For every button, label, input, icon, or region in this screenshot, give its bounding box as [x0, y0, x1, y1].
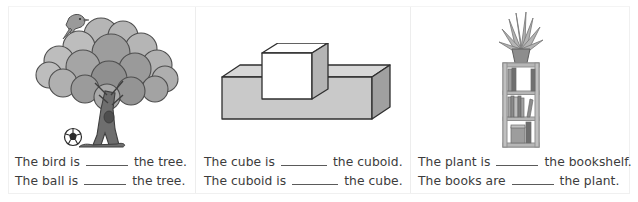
answer-blank-books[interactable] [512, 173, 554, 185]
exercise-panel-bookshelf: The plant is the bookshelf. The books ar… [411, 7, 629, 193]
sentence-cuboid: The cuboid is the cube. [204, 172, 410, 191]
captions-bookshelf: The plant is the bookshelf. The books ar… [411, 153, 629, 191]
sentence-ball: The ball is the tree. [15, 172, 195, 191]
answer-blank-plant[interactable] [496, 154, 538, 166]
sentence-plant-after: the bookshelf. [544, 155, 631, 169]
sentence-cube-before: The cube is [204, 155, 275, 169]
answer-blank-cube[interactable] [281, 154, 327, 166]
exercise-panel-tree: The bird is the tree. The ball is the tr… [9, 7, 196, 193]
exercise-grid: The bird is the tree. The ball is the tr… [8, 6, 630, 194]
cube-shape [262, 43, 328, 99]
cube-on-cuboid-illustration [218, 43, 394, 143]
sentence-books: The books are the plant. [418, 172, 629, 191]
exercise-panel-solids: The cube is the cuboid. The cuboid is th… [196, 7, 411, 193]
ball-icon [65, 129, 82, 146]
worksheet-root: The bird is the tree. The ball is the tr… [0, 0, 638, 202]
answer-blank-bird[interactable] [86, 154, 128, 166]
sentence-ball-after: the tree. [132, 174, 185, 188]
captions-tree: The bird is the tree. The ball is the tr… [9, 153, 195, 191]
captions-solids: The cube is the cuboid. The cuboid is th… [196, 153, 410, 191]
sentence-bird-after: the tree. [134, 155, 187, 169]
sentence-bird: The bird is the tree. [15, 153, 195, 172]
sentence-cuboid-after: the cube. [344, 174, 402, 188]
sentence-plant-before: The plant is [418, 155, 490, 169]
answer-blank-ball[interactable] [84, 173, 126, 185]
plant-icon [499, 12, 543, 63]
sentence-cuboid-before: The cuboid is [204, 174, 286, 188]
sentence-ball-before: The ball is [15, 174, 78, 188]
sentence-plant: The plant is the bookshelf. [418, 153, 629, 172]
sentence-cube: The cube is the cuboid. [204, 153, 410, 172]
bookshelf-icon [503, 63, 539, 147]
books-bottom-shelf [511, 122, 531, 143]
bookshelf-with-plant-illustration [485, 9, 557, 151]
sentence-cube-after: the cuboid. [333, 155, 403, 169]
answer-blank-cuboid[interactable] [292, 173, 338, 185]
sentence-books-before: The books are [418, 174, 506, 188]
tree-with-bird-and-ball-illustration [23, 9, 183, 151]
sentence-books-after: the plant. [560, 174, 620, 188]
sentence-bird-before: The bird is [15, 155, 80, 169]
